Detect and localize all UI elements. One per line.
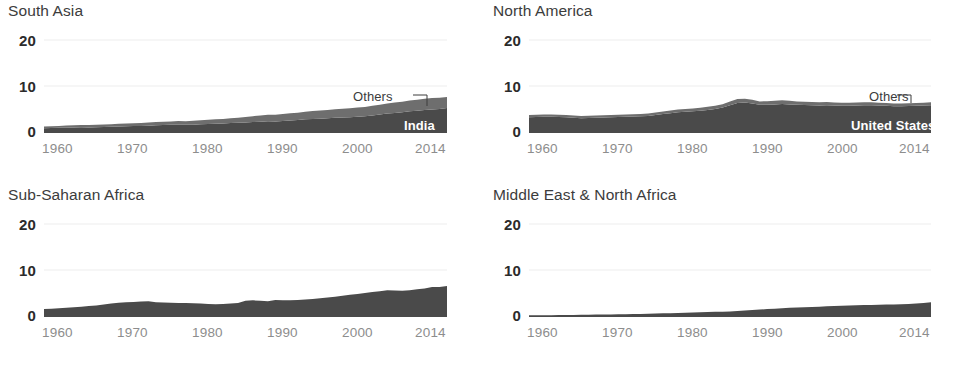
ytick-10: 10 (2, 78, 36, 95)
xtick-1980: 1980 (192, 325, 223, 340)
series-label-others: Others (353, 89, 393, 104)
plot-area-north-america: 20 10 0 1960 1970 1980 1990 2000 2014 Un… (485, 0, 969, 184)
xtick-1990: 1990 (267, 325, 298, 340)
plot-area-middle-east-north-africa: 20 10 0 1960 1970 1980 1990 2000 2014 (485, 184, 969, 368)
xtick-2000: 2000 (342, 325, 373, 340)
panel-north-america: North America 20 10 0 1960 1970 1980 199… (485, 0, 969, 184)
ytick-20: 20 (2, 32, 36, 49)
series-label-india: India (404, 118, 435, 133)
area-chart-svg (0, 184, 485, 368)
xtick-1990: 1990 (267, 141, 298, 156)
xtick-1990: 1990 (752, 141, 783, 156)
chart-grid: South Asia 20 10 0 1960 1970 1980 1990 2… (0, 0, 969, 368)
ytick-10: 10 (487, 262, 521, 279)
ytick-20: 20 (487, 32, 521, 49)
xtick-1960: 1960 (527, 325, 558, 340)
panel-middle-east-north-africa: Middle East & North Africa 20 10 0 1960 … (485, 184, 969, 368)
xtick-2000: 2000 (827, 325, 858, 340)
xtick-2000: 2000 (827, 141, 858, 156)
xtick-1970: 1970 (117, 325, 148, 340)
panel-south-asia: South Asia 20 10 0 1960 1970 1980 1990 2… (0, 0, 485, 184)
xtick-1960: 1960 (42, 325, 73, 340)
xtick-1960: 1960 (527, 141, 558, 156)
xtick-1970: 1970 (602, 141, 633, 156)
plot-area-south-asia: 20 10 0 1960 1970 1980 1990 2000 2014 In… (0, 0, 485, 184)
ytick-20: 20 (487, 216, 521, 233)
xtick-2000: 2000 (342, 141, 373, 156)
ytick-0: 0 (2, 307, 36, 324)
ytick-20: 20 (2, 216, 36, 233)
series-label-others: Others (869, 89, 909, 104)
xtick-2014: 2014 (415, 141, 446, 156)
ytick-10: 10 (487, 78, 521, 95)
xtick-1970: 1970 (117, 141, 148, 156)
xtick-1990: 1990 (752, 325, 783, 340)
series-label-united-states: United States (851, 118, 935, 133)
area-chart-svg (0, 0, 485, 184)
ytick-0: 0 (487, 123, 521, 140)
xtick-1960: 1960 (42, 141, 73, 156)
ytick-0: 0 (487, 307, 521, 324)
xtick-2014: 2014 (415, 325, 446, 340)
xtick-2014: 2014 (899, 141, 930, 156)
xtick-2014: 2014 (899, 325, 930, 340)
xtick-1970: 1970 (602, 325, 633, 340)
ytick-0: 0 (2, 123, 36, 140)
ytick-10: 10 (2, 262, 36, 279)
xtick-1980: 1980 (192, 141, 223, 156)
xtick-1980: 1980 (677, 141, 708, 156)
area-chart-svg (485, 184, 969, 368)
plot-area-sub-saharan-africa: 20 10 0 1960 1970 1980 1990 2000 2014 (0, 184, 485, 368)
xtick-1980: 1980 (677, 325, 708, 340)
panel-sub-saharan-africa: Sub-Saharan Africa 20 10 0 1960 1970 198… (0, 184, 485, 368)
